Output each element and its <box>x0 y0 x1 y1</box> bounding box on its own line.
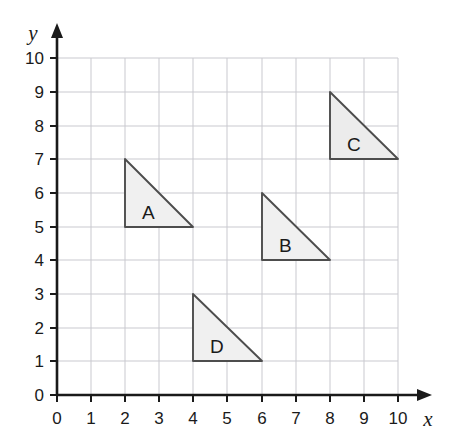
x-tick-label-8: 8 <box>325 409 334 428</box>
x-tick-label-0: 0 <box>52 409 61 428</box>
triangle-d-label: D <box>210 336 224 357</box>
triangle-a-label: A <box>142 202 155 223</box>
x-tick-label-10: 10 <box>389 409 408 428</box>
y-tick-label-10: 10 <box>25 49 44 68</box>
x-tick-label-9: 9 <box>359 409 368 428</box>
y-tick-label-4: 4 <box>35 251 44 270</box>
y-tick-label-3: 3 <box>35 285 44 304</box>
x-tick-label-2: 2 <box>120 409 129 428</box>
x-tick-label-6: 6 <box>257 409 266 428</box>
y-axis-tick-labels: 10 9 8 7 6 5 4 3 2 1 0 <box>25 49 44 405</box>
x-axis-name: x <box>422 407 433 431</box>
y-axis-name: y <box>26 21 38 45</box>
y-tick-label-6: 6 <box>35 184 44 203</box>
x-tick-label-5: 5 <box>222 409 231 428</box>
x-tick-label-7: 7 <box>291 409 300 428</box>
x-axis-arrow-icon <box>417 389 432 401</box>
y-tick-label-0: 0 <box>35 386 44 405</box>
coordinate-plot: A B C D <box>0 0 453 443</box>
y-tick-label-2: 2 <box>35 319 44 338</box>
x-tick-label-3: 3 <box>154 409 163 428</box>
x-tick-label-1: 1 <box>86 409 95 428</box>
x-tick-label-4: 4 <box>188 409 197 428</box>
y-tick-label-8: 8 <box>35 117 44 136</box>
x-axis-tick-labels: 0 1 2 3 4 5 6 7 8 9 10 <box>52 409 407 428</box>
y-axis-arrow-icon <box>51 23 63 38</box>
y-tick-label-5: 5 <box>35 218 44 237</box>
y-tick-label-9: 9 <box>35 83 44 102</box>
y-tick-label-1: 1 <box>35 352 44 371</box>
coordinate-grid-figure: A B C D <box>0 0 453 443</box>
triangle-b-label: B <box>279 235 292 256</box>
y-tick-label-7: 7 <box>35 150 44 169</box>
triangle-c-label: C <box>347 134 361 155</box>
